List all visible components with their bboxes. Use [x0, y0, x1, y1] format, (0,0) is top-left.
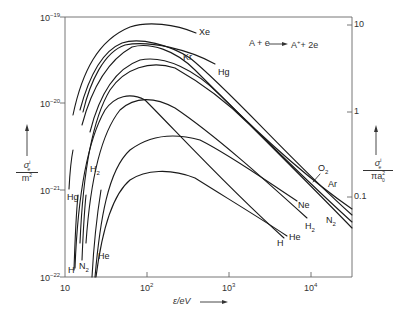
- curve-hg: [83, 44, 215, 112]
- ytick-base: 10: [40, 99, 50, 109]
- xtick-exp: 2: [150, 282, 153, 288]
- curves: [69, 24, 352, 277]
- ytick-exp: −22: [50, 272, 60, 278]
- label-o2: O2: [318, 164, 328, 175]
- sub-e: e: [378, 164, 381, 170]
- right-y-axis-label: σie πa20: [363, 158, 393, 184]
- x-ticks: [147, 272, 311, 277]
- h2-sub: 2: [97, 170, 100, 176]
- curve-ne: [95, 136, 297, 277]
- unit-pi-a0: πa: [371, 171, 382, 181]
- ytick-1e-22: 10−22: [40, 272, 60, 283]
- curve-o2: [82, 46, 352, 222]
- sup-2: 2: [382, 170, 385, 176]
- right-y-ticks: [347, 25, 352, 197]
- curve-he: [96, 171, 287, 277]
- reaction-product: A++ 2e: [291, 39, 318, 50]
- ytick-base: 10: [40, 186, 50, 196]
- h2-sub: 2: [312, 227, 315, 233]
- left-y-axis-arrow: [25, 124, 29, 156]
- right-y-numerator: σie: [363, 158, 393, 171]
- right-y-denominator: πa20: [363, 171, 393, 183]
- label-hg-left: Hg: [67, 193, 79, 202]
- reaction-annotation: A + e: [249, 39, 270, 48]
- ytick-1e-19: 10−19: [40, 12, 60, 23]
- xtick-base: 10: [60, 283, 70, 293]
- rtick-10: 10: [354, 20, 364, 29]
- left-y-denominator: m2: [16, 173, 38, 184]
- ytick-1e-21: 10−21: [40, 185, 60, 196]
- sub-0: 0: [382, 177, 385, 183]
- curve-h2: [86, 100, 307, 243]
- label-h-left: H: [68, 266, 75, 275]
- left-y-numerator: σie: [16, 160, 38, 173]
- xtick-base: 10: [222, 283, 232, 293]
- xtick-1000: 103: [222, 282, 235, 293]
- reaction-lhs: A + e: [249, 38, 270, 48]
- x-axis-arrow: [200, 300, 228, 304]
- ytick-1e-20: 10−20: [40, 98, 60, 109]
- ytick-base: 10: [40, 13, 50, 23]
- right-y-axis-arrow: [374, 125, 378, 155]
- xtick-exp: 4: [314, 282, 317, 288]
- o2-base: O: [318, 163, 325, 173]
- label-he-right: He: [289, 233, 301, 242]
- label-he-left: He: [98, 252, 110, 261]
- label-hg-top: Hg: [218, 68, 230, 77]
- label-n2-right: N2: [326, 216, 336, 227]
- curve-h: [75, 96, 284, 268]
- sup-i: i: [29, 159, 30, 165]
- label-h-right: H: [277, 239, 284, 248]
- xtick-base: 10: [140, 283, 150, 293]
- xtick-exp: 3: [232, 282, 235, 288]
- o2-sub: 2: [325, 169, 328, 175]
- curve-kr: [80, 41, 352, 215]
- x-axis-label: ε/eV: [173, 297, 190, 306]
- label-h2-right: H2: [305, 222, 315, 233]
- xtick-base: 10: [304, 283, 314, 293]
- label-xe: Xe: [199, 28, 210, 37]
- curve-hg-left-stub: [69, 150, 73, 189]
- label-n2-left: N2: [79, 262, 89, 273]
- label-ar: Ar: [328, 180, 337, 189]
- left-y-ticks: [60, 17, 65, 277]
- xtick-100: 102: [140, 282, 153, 293]
- ytick-exp: −21: [50, 185, 60, 191]
- sup-i: i: [380, 157, 381, 163]
- n2-sub: 2: [86, 267, 89, 273]
- n2-sub: 2: [333, 221, 336, 227]
- left-y-axis-label: σie m2: [16, 160, 38, 184]
- sup-2: 2: [29, 172, 32, 178]
- xtick-10000: 104: [304, 282, 317, 293]
- label-h2-left: H2: [90, 165, 100, 176]
- xtick-10: 10: [60, 284, 70, 293]
- reaction-arrow: [269, 42, 288, 46]
- o2-leader-line: [313, 174, 320, 182]
- ytick-exp: −20: [50, 98, 60, 104]
- label-ne: Ne: [298, 201, 310, 210]
- ytick-exp: −19: [50, 12, 60, 18]
- ytick-base: 10: [40, 273, 50, 283]
- sub-e: e: [27, 166, 30, 172]
- label-kr: Kr: [183, 53, 192, 62]
- curve-ar: [90, 59, 352, 209]
- rtick-0-1: 0.1: [354, 192, 367, 201]
- reaction-electrons: + 2e: [301, 40, 319, 50]
- rtick-1: 1: [354, 107, 359, 116]
